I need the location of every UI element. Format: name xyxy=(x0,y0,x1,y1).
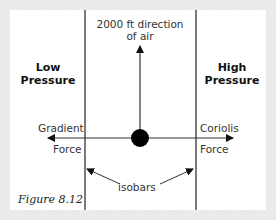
coriolis-force-label: Force xyxy=(200,143,228,155)
low-pressure-line2: Pressure xyxy=(14,74,82,87)
gradient-label: Gradient xyxy=(38,122,84,134)
low-pressure-label: Low Pressure xyxy=(14,61,82,87)
air-parcel-dot xyxy=(131,129,149,147)
high-pressure-line1: High xyxy=(199,61,265,74)
low-pressure-line1: Low xyxy=(14,61,82,74)
high-pressure-line2: Pressure xyxy=(199,74,265,87)
figure-caption: Figure 8.12 xyxy=(18,193,83,206)
isobar-pointer-right xyxy=(160,169,193,184)
gradient-force-label: Force xyxy=(53,143,81,155)
isobar-pointer-left xyxy=(87,169,120,184)
air-direction-label: 2000 ft direction of air xyxy=(92,18,188,42)
air-direction-label-line1: 2000 ft direction xyxy=(92,18,188,30)
air-direction-label-line2: of air xyxy=(92,30,188,42)
coriolis-label: Coriolis xyxy=(200,122,239,134)
high-pressure-label: High Pressure xyxy=(199,61,265,87)
isobars-label: isobars xyxy=(118,181,156,193)
